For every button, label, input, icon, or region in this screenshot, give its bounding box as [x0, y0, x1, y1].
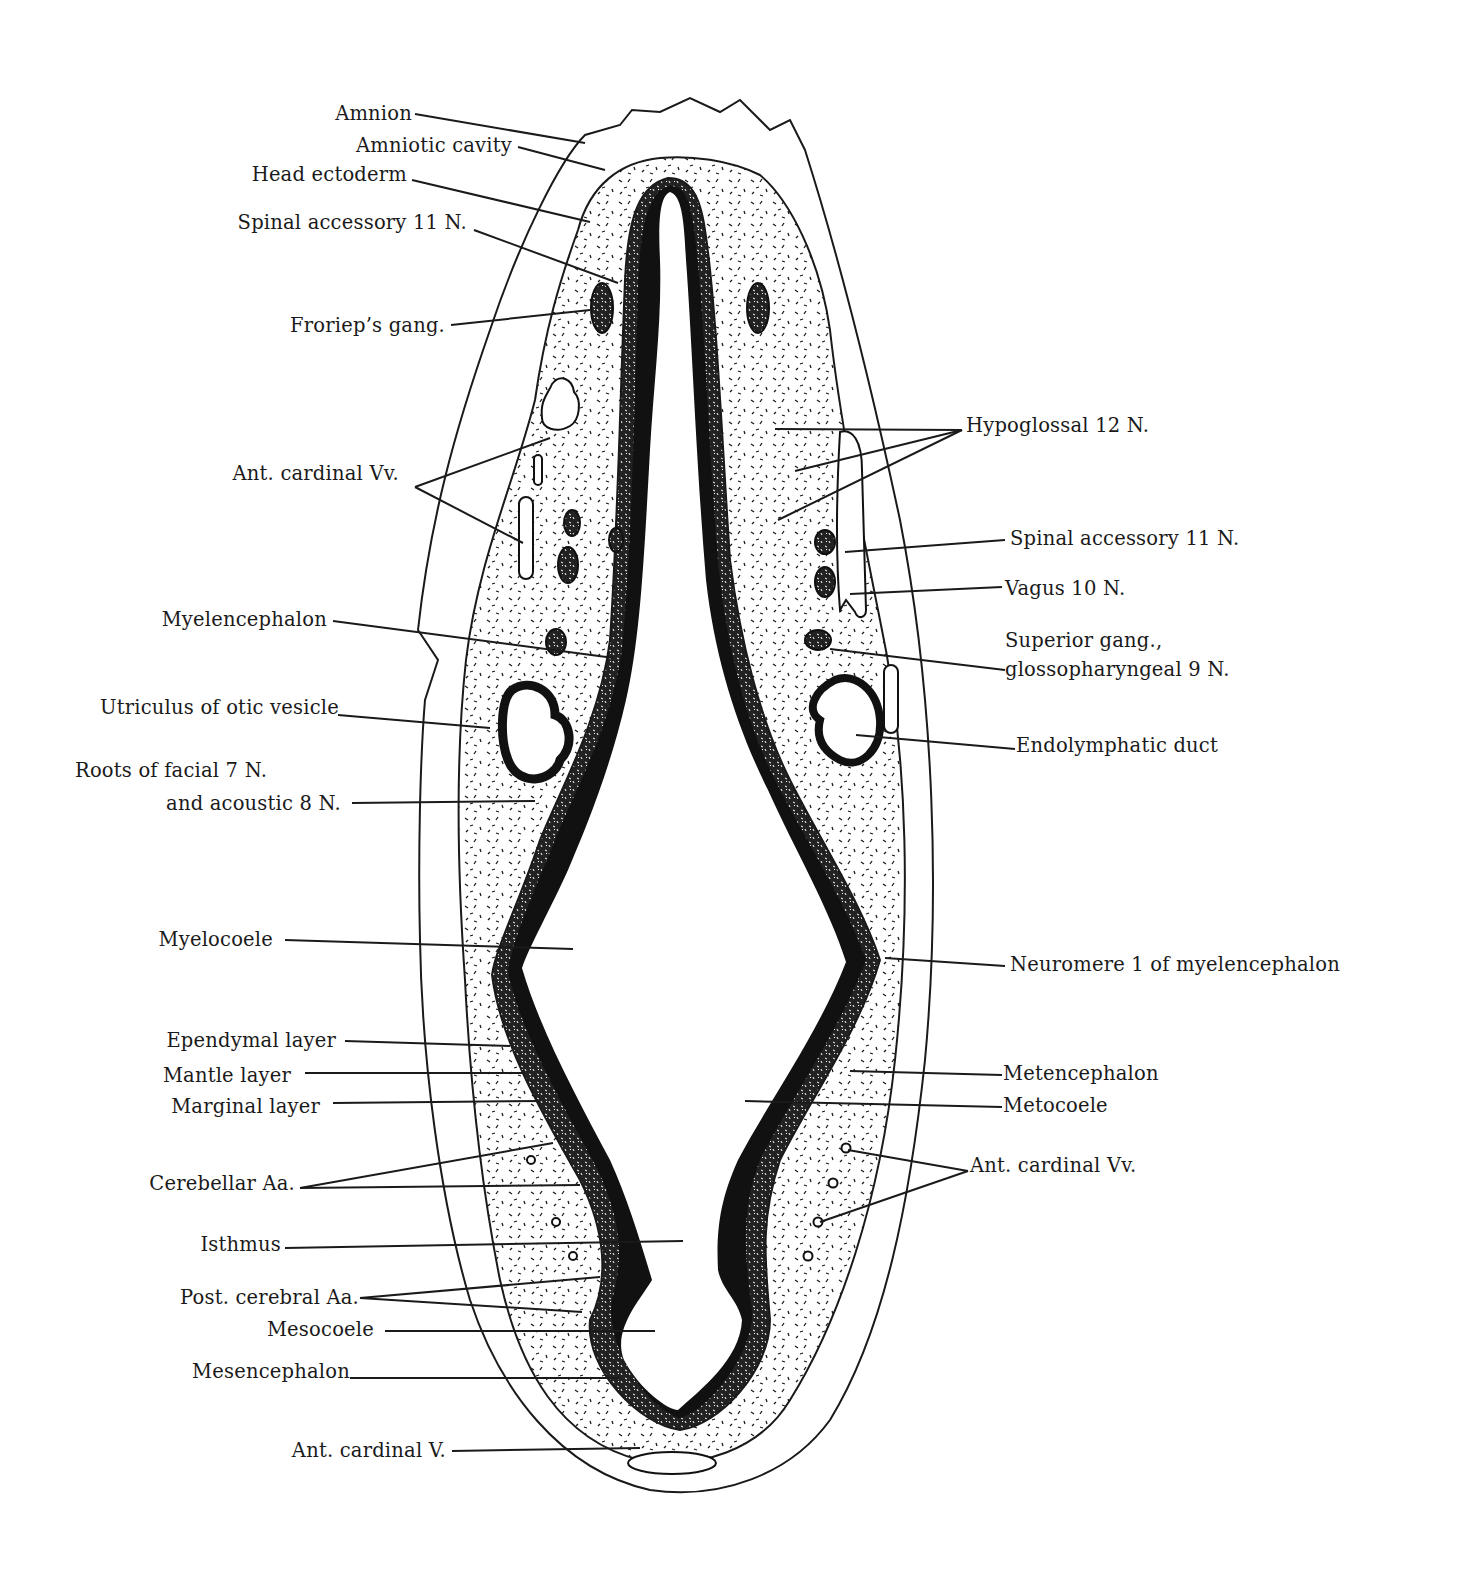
vessel-left-2: [552, 1218, 560, 1226]
label-cerebellar-aa: Cerebellar Aa.: [149, 1173, 295, 1195]
label-mesocoele: Mesocoele: [267, 1319, 374, 1341]
label-myelencephalon: Myelencephalon: [162, 609, 327, 631]
vessel-left-3: [569, 1252, 577, 1260]
label-ant-cardinal-v: Ant. cardinal V.: [292, 1440, 446, 1462]
label-ant-cardinal-vv-left: Ant. cardinal Vv.: [233, 463, 399, 485]
label-superior-ganglion-line2: glossopharyngeal 9 N.: [1005, 659, 1230, 681]
vessel-right-2: [829, 1179, 838, 1188]
ganglion-left-1: [564, 510, 580, 536]
label-endolymphatic-duct: Endolymphatic duct: [1016, 735, 1218, 757]
endolymphatic-duct-left: [884, 665, 898, 733]
ant-cardinal-vein-bottom: [628, 1452, 716, 1474]
label-mantle-layer: Mantle layer: [163, 1065, 291, 1087]
label-post-cerebral-aa: Post. cerebral Aa.: [180, 1287, 359, 1309]
frorieps-ganglion-right: [747, 283, 769, 333]
ant-cardinal-vein-left-lower: [519, 497, 533, 579]
ganglion-right-3: [805, 630, 831, 650]
label-frorieps-ganglion: Froriep’s gang.: [290, 315, 445, 337]
vessel-left-1: [527, 1156, 535, 1164]
embryo-section-diagram: Amnion Amniotic cavity Head ectoderm Spi…: [0, 0, 1457, 1594]
ganglion-left-4: [609, 528, 623, 552]
label-marginal-layer: Marginal layer: [171, 1096, 320, 1118]
label-hypoglossal: Hypoglossal 12 N.: [966, 415, 1149, 437]
ant-cardinal-vein-left-small: [534, 455, 542, 485]
label-spinal-accessory-left: Spinal accessory 11 N.: [238, 212, 467, 234]
label-superior-ganglion-line1: Superior gang.,: [1005, 630, 1162, 652]
otic-vesicle-right: [813, 678, 880, 763]
label-neuromere-1: Neuromere 1 of myelencephalon: [1010, 954, 1340, 976]
label-amniotic-cavity: Amniotic cavity: [356, 135, 512, 157]
frorieps-ganglion-left: [591, 283, 613, 333]
ganglion-right-1: [815, 530, 835, 554]
label-metencephalon: Metencephalon: [1003, 1063, 1159, 1085]
label-myelocoele: Myelocoele: [159, 929, 273, 951]
label-roots-facial-line1: Roots of facial 7 N.: [75, 760, 267, 782]
vessel-right-4: [804, 1252, 813, 1261]
ganglion-left-2: [558, 547, 578, 583]
label-roots-facial-line2: and acoustic 8 N.: [166, 793, 341, 815]
label-head-ectoderm: Head ectoderm: [252, 164, 407, 186]
label-mesencephalon: Mesencephalon: [192, 1361, 350, 1383]
label-amnion: Amnion: [335, 103, 412, 125]
label-metocoele: Metocoele: [1003, 1095, 1108, 1117]
label-ependymal-layer: Ependymal layer: [166, 1030, 336, 1052]
label-isthmus: Isthmus: [200, 1234, 281, 1256]
label-ant-cardinal-vv-right: Ant. cardinal Vv.: [970, 1155, 1136, 1177]
ganglion-right-2: [815, 567, 835, 597]
label-vagus: Vagus 10 N.: [1005, 578, 1125, 600]
label-spinal-accessory-right: Spinal accessory 11 N.: [1010, 528, 1239, 550]
label-utriculus-otic-vesicle: Utriculus of otic vesicle: [100, 697, 339, 719]
